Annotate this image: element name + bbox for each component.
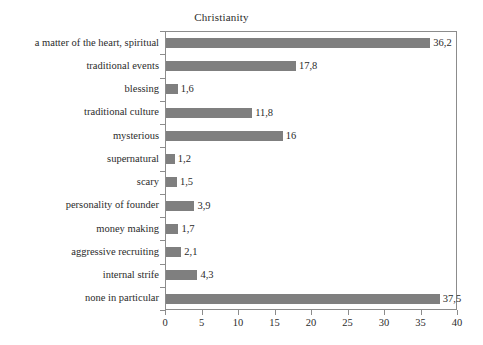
- x-axis-tick: [457, 310, 458, 315]
- x-axis-tick: [348, 310, 349, 315]
- y-axis-category-labels: a matter of the heart, spiritualtraditio…: [0, 31, 159, 310]
- bar-row: 1,5: [166, 172, 456, 193]
- x-axis-tick: [421, 310, 422, 315]
- y-axis-tick: [160, 78, 165, 79]
- y-axis-label: money making: [0, 223, 159, 235]
- y-axis-tick: [160, 217, 165, 218]
- x-axis-tick: [384, 310, 385, 315]
- y-axis-label: aggressive recruiting: [0, 246, 159, 258]
- bar-value-label: 37,5: [443, 289, 461, 309]
- x-axis-tick: [275, 310, 276, 315]
- y-axis-label: blessing: [0, 83, 159, 95]
- bar: [166, 38, 430, 48]
- bar-row: 16: [166, 126, 456, 147]
- y-axis-tick: [160, 124, 165, 125]
- x-axis-tick: [165, 310, 166, 315]
- bar: [166, 224, 178, 234]
- y-axis-tick: [160, 54, 165, 55]
- bar: [166, 154, 175, 164]
- y-axis-label: personality of founder: [0, 199, 159, 211]
- y-axis-label: a matter of the heart, spiritual: [0, 37, 159, 49]
- x-axis-tick-label: 20: [306, 317, 317, 328]
- bar-value-label: 3,9: [197, 196, 210, 216]
- bar-row: 1,7: [166, 219, 456, 240]
- y-axis-tick: [160, 287, 165, 288]
- bar: [166, 131, 283, 141]
- y-axis-label: traditional events: [0, 60, 159, 72]
- chart-page: Christianity a matter of the heart, spir…: [0, 0, 483, 345]
- bar-row: 4,3: [166, 265, 456, 286]
- y-axis-tick: [160, 264, 165, 265]
- bar: [166, 247, 181, 257]
- bar: [166, 270, 197, 280]
- x-axis-tick-label: 10: [233, 317, 244, 328]
- bar-value-label: 1,7: [181, 219, 194, 239]
- y-axis-tick: [160, 31, 165, 32]
- y-axis-tick: [160, 240, 165, 241]
- bar-value-label: 2,1: [184, 242, 197, 262]
- bar: [166, 201, 194, 211]
- y-axis-tick: [160, 147, 165, 148]
- bar-row: 1,6: [166, 79, 456, 100]
- x-axis-tick-label: 30: [379, 317, 390, 328]
- bar-row: 3,9: [166, 196, 456, 217]
- bar-value-label: 1,5: [180, 172, 193, 192]
- bar-value-label: 1,2: [178, 149, 191, 169]
- bar: [166, 61, 296, 71]
- bars-layer: 36,217,81,611,8161,21,53,91,72,14,337,5: [166, 32, 456, 309]
- bar-value-label: 16: [286, 126, 297, 146]
- y-axis-label: traditional culture: [0, 106, 159, 118]
- y-axis-label: mysterious: [0, 130, 159, 142]
- chart-title: Christianity: [0, 11, 463, 23]
- y-axis-tick: [160, 194, 165, 195]
- bar-row: 36,2: [166, 33, 456, 54]
- x-axis-tick-label: 15: [269, 317, 280, 328]
- y-axis-tick: [160, 101, 165, 102]
- x-axis-tick: [202, 310, 203, 315]
- y-axis-label: internal strife: [0, 269, 159, 281]
- bar: [166, 84, 178, 94]
- bar-value-label: 36,2: [433, 33, 451, 53]
- bar-row: 2,1: [166, 242, 456, 263]
- x-axis-tick: [238, 310, 239, 315]
- x-axis-tick-label: 35: [415, 317, 426, 328]
- x-axis-tick-label: 25: [342, 317, 353, 328]
- bar-row: 11,8: [166, 103, 456, 124]
- bar-value-label: 4,3: [200, 265, 213, 285]
- bar-row: 1,2: [166, 149, 456, 170]
- bar-value-label: 1,6: [181, 79, 194, 99]
- plot-area: 36,217,81,611,8161,21,53,91,72,14,337,5: [165, 31, 457, 310]
- bar: [166, 177, 177, 187]
- y-axis-tick: [160, 171, 165, 172]
- bar-value-label: 17,8: [299, 56, 317, 76]
- y-axis-label: none in particular: [0, 292, 159, 304]
- x-axis-tick-label: 5: [199, 317, 204, 328]
- bar-value-label: 11,8: [255, 103, 273, 123]
- bar: [166, 294, 440, 304]
- y-axis-label: scary: [0, 176, 159, 188]
- x-axis-tick-label: 40: [452, 317, 463, 328]
- bar-row: 17,8: [166, 56, 456, 77]
- x-axis-tick-label: 0: [162, 317, 167, 328]
- y-axis-label: supernatural: [0, 153, 159, 165]
- bar: [166, 108, 252, 118]
- x-axis-tick: [311, 310, 312, 315]
- bar-row: 37,5: [166, 289, 456, 310]
